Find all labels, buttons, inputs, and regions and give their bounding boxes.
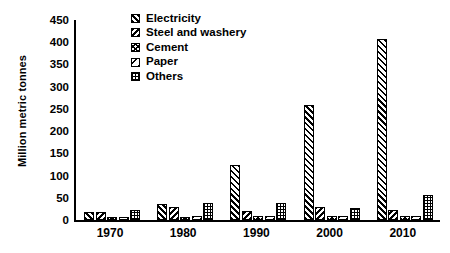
y-tick-label: 400 (21, 36, 69, 48)
legend-label-others: Others (146, 71, 183, 83)
bar-cement (327, 216, 337, 220)
legend-label-cement: Cement (146, 42, 188, 54)
y-tick-label: 350 (21, 58, 69, 70)
legend-item-others: Others (131, 69, 246, 84)
bar-others (203, 203, 213, 220)
bar-paper (338, 216, 348, 220)
legend-swatch-paper-icon (131, 58, 140, 67)
legend-swatch-others-icon (131, 72, 140, 81)
x-tick-label: 1990 (216, 226, 296, 240)
legend-item-electricity: Electricity (131, 11, 246, 26)
bar-electricity (230, 165, 240, 220)
bar-paper (411, 216, 421, 220)
y-tick-label: 50 (21, 192, 69, 204)
legend-swatch-cement-icon (131, 43, 140, 52)
bar-group (304, 20, 366, 220)
legend-item-paper: Paper (131, 55, 246, 70)
y-axis-line (74, 20, 76, 220)
bar-electricity (84, 212, 94, 220)
bar-others (276, 203, 286, 220)
x-tick-label: 2000 (290, 226, 370, 240)
bar-chart: Million metric tonnes 050100150200250300… (0, 0, 450, 253)
legend-swatch-steel-icon (131, 28, 140, 37)
bar-cement (107, 217, 117, 220)
bar-paper (192, 216, 202, 220)
bar-electricity (157, 204, 167, 220)
chart-legend: Electricity Steel and washery Cement Pap… (131, 11, 246, 84)
bar-electricity (304, 105, 314, 220)
legend-swatch-electricity-icon (131, 14, 140, 23)
y-tick-label: 200 (21, 125, 69, 137)
x-tick-label: 2010 (363, 226, 443, 240)
legend-item-cement: Cement (131, 40, 246, 55)
legend-label-electricity: Electricity (146, 13, 201, 25)
bar-others (130, 210, 140, 220)
bar-steel-and-washery (96, 212, 106, 220)
legend-item-steel-and-washery: Steel and washery (131, 26, 246, 41)
bar-steel-and-washery (388, 210, 398, 220)
y-tick-label: 0 (21, 214, 69, 226)
y-tick-label: 150 (21, 147, 69, 159)
bar-steel-and-washery (315, 207, 325, 220)
bar-paper (119, 217, 129, 220)
bar-others (350, 208, 360, 220)
y-tick-label: 450 (21, 14, 69, 26)
bar-cement (180, 217, 190, 220)
bar-others (423, 195, 433, 220)
x-tick-label: 1970 (70, 226, 150, 240)
y-tick-label: 100 (21, 170, 69, 182)
bar-group (377, 20, 439, 220)
x-axis-line (74, 220, 440, 222)
legend-label-steel-and-washery: Steel and washery (146, 27, 246, 39)
bar-electricity (377, 39, 387, 220)
bar-steel-and-washery (169, 207, 179, 220)
legend-label-paper: Paper (146, 56, 178, 68)
x-tick-label: 1980 (143, 226, 223, 240)
y-tick-label: 300 (21, 81, 69, 93)
y-tick-label: 250 (21, 103, 69, 115)
bar-cement (400, 216, 410, 220)
bar-cement (253, 216, 263, 220)
bar-steel-and-washery (242, 211, 252, 220)
bar-paper (265, 216, 275, 220)
plot-area: 050100150200250300350400450 197019801990… (74, 20, 440, 220)
